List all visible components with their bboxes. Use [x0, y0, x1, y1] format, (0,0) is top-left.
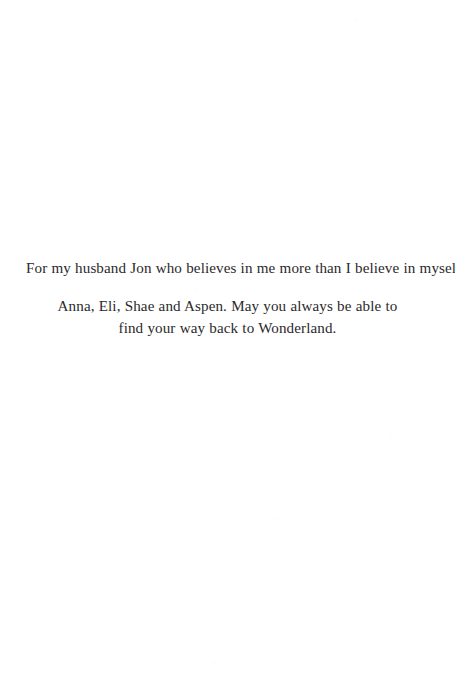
- dedication-page: For my husband Jon who believes in me mo…: [0, 0, 455, 691]
- dedication-secondary-text: Anna, Eli, Shae and Aspen. May you alway…: [26, 295, 429, 339]
- scan-grain-overlay: [0, 0, 455, 691]
- dedication-primary-text: For my husband Jon who believes in me mo…: [26, 257, 429, 279]
- dedication-text-block: For my husband Jon who believes in me mo…: [26, 257, 429, 339]
